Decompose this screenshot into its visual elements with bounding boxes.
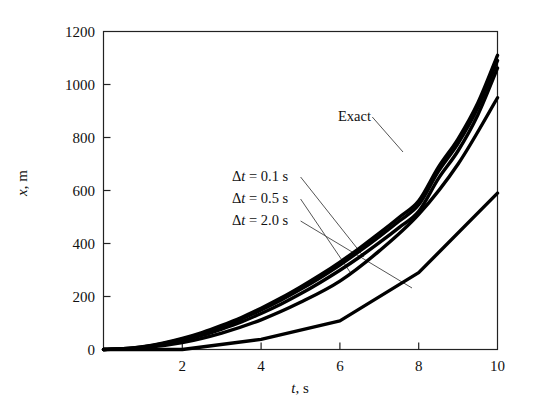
x-tick-label: 10 <box>490 358 505 375</box>
y-axis-ticks <box>104 85 111 297</box>
data-curve <box>104 98 498 350</box>
curve-label-exact: Exact <box>338 108 371 125</box>
data-curves <box>104 55 498 349</box>
curve-label-dt01: Δt = 0.1 s <box>232 168 288 185</box>
data-curve <box>104 55 498 349</box>
curve-label-text: Exact <box>338 108 371 124</box>
x-axis-title: t, s <box>291 380 309 397</box>
data-curve <box>104 193 498 349</box>
y-axis-title-symbol: x <box>14 189 30 196</box>
y-tick-label: 200 <box>40 288 95 305</box>
annotation-leader-lines <box>301 117 412 288</box>
delta-glyph: Δ <box>232 212 241 228</box>
x-axis-title-units: , s <box>295 380 308 396</box>
delta-glyph: Δ <box>232 190 241 206</box>
y-tick-label: 0 <box>40 341 95 358</box>
data-curve <box>104 68 498 349</box>
curve-label-value: = 0.5 s <box>245 190 288 206</box>
leader-line-exact <box>372 117 403 152</box>
x-tick-label: 8 <box>415 358 423 375</box>
data-curve <box>104 61 498 350</box>
y-tick-label: 800 <box>40 129 95 146</box>
figure-container: 020040060080010001200 246810 x, m t, s E… <box>0 0 535 410</box>
x-tick-label: 2 <box>179 358 187 375</box>
x-tick-label: 6 <box>336 358 344 375</box>
y-tick-label: 400 <box>40 235 95 252</box>
y-tick-label: 1000 <box>40 76 95 93</box>
delta-glyph: Δ <box>232 168 241 184</box>
y-tick-label: 600 <box>40 182 95 199</box>
curve-label-value: = 0.1 s <box>245 168 288 184</box>
y-axis-title: x, m <box>14 170 31 196</box>
y-axis-title-units: , m <box>14 170 30 189</box>
curve-label-value: = 2.0 s <box>245 212 288 228</box>
curve-label-dt20: Δt = 2.0 s <box>232 212 288 229</box>
curve-label-dt05: Δt = 0.5 s <box>232 190 288 207</box>
x-tick-label: 4 <box>257 358 265 375</box>
y-tick-label: 1200 <box>40 23 95 40</box>
